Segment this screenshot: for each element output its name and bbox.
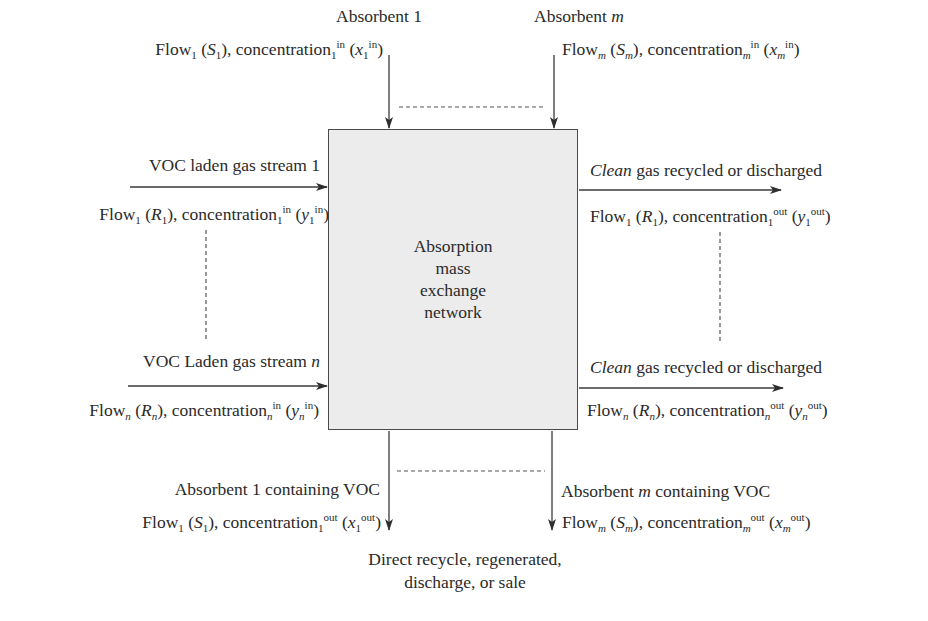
absorbent-1-out-flow: Flow1 (S1), concentration1out (x1out) xyxy=(142,512,381,532)
box-title-line: network xyxy=(329,301,577,323)
gas-n-out-flow: Flown (Rn), concentrationnout (ynout) xyxy=(587,400,828,420)
absorbent-m-in-flow: Flowm (Sm), concentrationmin (xmin) xyxy=(562,39,800,59)
gas-1-out-name: Clean gas recycled or discharged xyxy=(590,160,822,180)
absorbent-m-out-name: Absorbent m containing VOC xyxy=(561,481,770,501)
absorbent-1-in-name: Absorbent 1 xyxy=(336,6,422,26)
absorbent-1-in-flow: Flow1 (S1), concentration1in (x1in) xyxy=(155,39,383,59)
destination-label: Direct recycle, regenerated, discharge, … xyxy=(330,548,600,594)
destination-line: Direct recycle, regenerated, xyxy=(330,548,600,571)
box-title-line: Absorption xyxy=(329,235,577,257)
gas-1-out-flow: Flow1 (R1), concentration1out (y1out) xyxy=(590,206,831,226)
gas-1-in-name: VOC laden gas stream 1 xyxy=(149,155,320,175)
gas-n-in-name: VOC Laden gas stream n xyxy=(143,351,320,371)
gas-1-in-flow: Flow1 (R1), concentration1in (y1in) xyxy=(99,204,329,224)
absorption-network-diagram: Absorption mass exchange network Absorbe… xyxy=(0,0,928,621)
gas-n-out-name: Clean gas recycled or discharged xyxy=(590,357,822,377)
gas-n-in-flow: Flown (Rn), concentrationnin (ynin) xyxy=(89,400,319,420)
absorbent-1-out-name: Absorbent 1 containing VOC xyxy=(175,479,380,499)
box-title-line: mass xyxy=(329,257,577,279)
absorbent-m-out-flow: Flowm (Sm), concentrationmout (xmout) xyxy=(562,512,811,532)
box-title-line: exchange xyxy=(329,279,577,301)
box-title: Absorption mass exchange network xyxy=(329,235,577,323)
absorption-network-box: Absorption mass exchange network xyxy=(328,129,578,430)
absorbent-m-in-name: Absorbent m xyxy=(534,6,624,26)
destination-line: discharge, or sale xyxy=(330,571,600,594)
